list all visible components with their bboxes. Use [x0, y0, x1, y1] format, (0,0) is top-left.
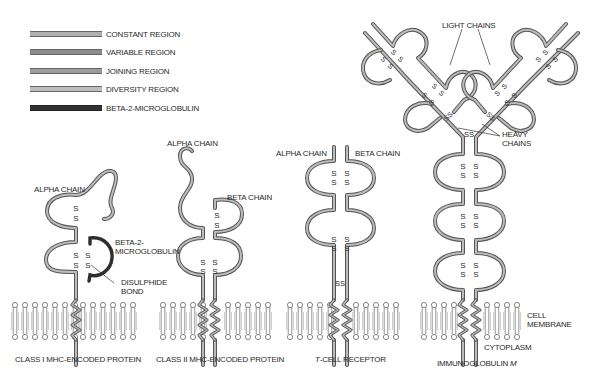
svg-text:S: S — [331, 244, 336, 253]
tcr-title: T-CELL RECEPTOR — [315, 355, 386, 364]
svg-text:S: S — [473, 212, 478, 221]
class1-title: CLASS I MHC-ENCODED PROTEIN — [15, 355, 141, 364]
svg-text:S: S — [544, 62, 552, 70]
tcr-title-rest: -CELL RECEPTOR — [320, 355, 386, 364]
svg-text:S: S — [551, 55, 559, 63]
class2-alpha-chain — [178, 148, 207, 365]
beta2-label-line2: MICROGLOBULIN — [115, 247, 180, 256]
beta2-label-line1: BETA-2- — [115, 238, 144, 247]
svg-text:S: S — [331, 235, 336, 244]
svg-text:S: S — [331, 169, 336, 178]
svg-text:S: S — [212, 258, 217, 267]
disulphide-label-line2: BOND — [121, 287, 143, 296]
cell-membrane-label-line1: CELL — [527, 311, 546, 320]
t-cell-receptor: S S S S S S S S SS — [287, 147, 400, 365]
svg-text:S: S — [344, 244, 349, 253]
class2-beta-chain-label: BETA CHAIN — [227, 193, 272, 202]
class1-mhc-protein: S S S S S S — [12, 171, 137, 365]
svg-text:S: S — [460, 162, 465, 171]
svg-text:S: S — [214, 211, 219, 220]
class2-alpha-chain-label: ALPHA CHAIN — [167, 139, 218, 148]
svg-text:S: S — [460, 171, 465, 180]
svg-text:S: S — [73, 204, 78, 213]
svg-text:S: S — [212, 267, 217, 276]
heavy-chains-label-line2: CHAINS — [502, 139, 531, 148]
class2-mhc-protein: S S S S S S — [160, 148, 272, 365]
svg-text:S: S — [73, 251, 78, 260]
svg-text:S: S — [438, 89, 446, 97]
svg-text:S: S — [500, 82, 508, 90]
svg-text:S: S — [473, 162, 478, 171]
svg-text:S: S — [214, 221, 219, 230]
svg-text:S: S — [344, 169, 349, 178]
beta2-microglobulin — [89, 238, 112, 281]
svg-text:S: S — [85, 251, 90, 260]
svg-text:S: S — [344, 178, 349, 187]
svg-text:SS: SS — [335, 279, 345, 288]
svg-text:S: S — [200, 258, 205, 267]
svg-text:S: S — [431, 82, 439, 90]
svg-text:S: S — [331, 178, 336, 187]
heavy-chains-label-line1: HEAVY — [502, 130, 528, 139]
class2-disulphide-bonds: S S S S S S — [200, 211, 219, 276]
svg-text:S: S — [534, 55, 542, 63]
igm-arm-loops — [363, 50, 576, 131]
disulphide-label-line1: DISULPHIDE — [121, 278, 167, 287]
tcr-beta-chain-label: BETA CHAIN — [355, 149, 400, 158]
svg-text:S: S — [493, 89, 501, 97]
light-chains-label: LIGHT CHAINS — [442, 21, 495, 30]
class2-title: CLASS II MHC-ENCODED PROTEIN — [156, 355, 284, 364]
svg-text:S: S — [390, 48, 398, 56]
svg-text:S: S — [73, 261, 78, 270]
svg-text:S: S — [85, 261, 90, 270]
svg-text:S: S — [473, 171, 478, 180]
svg-text:S: S — [460, 221, 465, 230]
svg-text:S: S — [473, 270, 478, 279]
svg-text:S: S — [473, 221, 478, 230]
svg-text:S: S — [473, 261, 478, 270]
svg-text:S: S — [200, 267, 205, 276]
svg-text:S: S — [344, 235, 349, 244]
svg-text:SS: SS — [464, 130, 474, 139]
svg-text:S: S — [460, 270, 465, 279]
igm-title-italic: M — [510, 359, 516, 368]
svg-text:S: S — [460, 212, 465, 221]
svg-text:S: S — [397, 55, 405, 63]
igm-title-main: IMMUNOGLOBULIN — [437, 359, 510, 368]
svg-text:S: S — [380, 55, 388, 63]
cytoplasm-label: CYTOPLASM — [484, 343, 531, 352]
diagram-canvas: S S S S S S S S S S — [0, 0, 595, 381]
class1-alpha-chain-label: ALPHA CHAIN — [34, 185, 85, 194]
igm-membrane — [421, 302, 521, 339]
svg-text:S: S — [387, 62, 395, 70]
cell-membrane-label-line2: MEMBRANE — [527, 320, 572, 329]
igm-title: IMMUNOGLOBULIN M — [437, 359, 516, 368]
svg-text:S: S — [73, 214, 78, 223]
tcr-alpha-chain-label: ALPHA CHAIN — [276, 149, 327, 158]
svg-text:S: S — [460, 261, 465, 270]
svg-text:S: S — [541, 48, 549, 56]
igm-disulphide-bonds: S S S S S S S S S S S S SS S S S S S S S… — [380, 48, 560, 279]
